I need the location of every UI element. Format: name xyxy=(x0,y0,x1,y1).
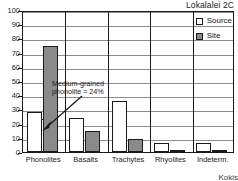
bar-site xyxy=(170,150,185,152)
figure-bar-chart: Lokalalei 2C 0102030405060708090100 Phon… xyxy=(0,0,238,181)
legend-label-source: Source xyxy=(207,17,232,25)
x-axis-tick-label: Phonolites xyxy=(22,155,64,164)
y-axis-tick-mark xyxy=(18,39,22,40)
y-axis-tick-mark xyxy=(18,68,22,69)
y-axis-tick-mark xyxy=(18,110,22,111)
annotation-medium-grained-phonolite: Medium-grained phonolite = 24% xyxy=(52,80,104,97)
bar-source xyxy=(112,101,127,152)
legend-item-site[interactable]: Site xyxy=(196,30,232,42)
bar-source xyxy=(154,143,169,152)
y-axis-tick-mark xyxy=(18,82,22,83)
category-separator xyxy=(193,12,194,152)
y-axis-tick-mark xyxy=(18,153,22,154)
y-axis-tick-mark xyxy=(18,54,22,55)
bar-site xyxy=(212,150,227,152)
bar-site xyxy=(128,139,143,152)
legend-item-source[interactable]: Source xyxy=(196,15,232,27)
annotation-line-2: phonolite = 24% xyxy=(52,88,104,96)
legend-swatch-source-icon xyxy=(196,18,203,25)
legend-label-site: Site xyxy=(207,32,221,40)
category-separator xyxy=(150,12,151,152)
y-axis-tick-mark xyxy=(18,25,22,26)
legend: Source Site xyxy=(196,15,232,45)
y-axis-tick-mark xyxy=(18,125,22,126)
chart-title: Lokalalei 2C xyxy=(186,0,234,10)
x-axis-tick-label: Basalts xyxy=(64,155,106,164)
x-axis-tick-label: Trachytes xyxy=(107,155,149,164)
y-axis-tick-mark xyxy=(18,11,22,12)
y-axis-tick-mark xyxy=(18,139,22,140)
bar-source xyxy=(27,112,42,152)
bar-site xyxy=(85,131,100,152)
x-axis-tick-label: Rhyolites xyxy=(149,155,191,164)
credit-text: Kokis xyxy=(218,173,238,181)
gridline xyxy=(23,12,233,13)
x-axis-tick-label: Indeterm. xyxy=(192,155,234,164)
bar-site xyxy=(43,46,58,153)
category-separator xyxy=(108,12,109,152)
legend-swatch-site-icon xyxy=(196,33,203,40)
bar-source xyxy=(196,143,211,152)
y-axis-tick-mark xyxy=(18,96,22,97)
bar-source xyxy=(69,118,84,152)
